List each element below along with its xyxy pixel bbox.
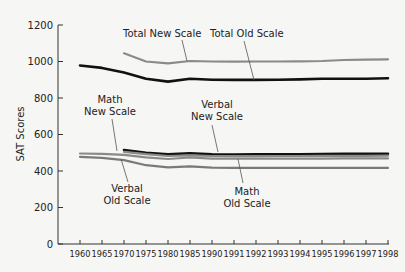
annotation-pointer bbox=[238, 159, 243, 183]
y-tick-label: 800 bbox=[34, 93, 53, 104]
x-tick-label: 1994 bbox=[290, 249, 311, 259]
x-tick-label: 1995 bbox=[312, 249, 333, 259]
annotation-label: Old Scale bbox=[223, 198, 270, 209]
annotation-pointer bbox=[212, 125, 218, 152]
x-tick-label: 1992 bbox=[246, 249, 267, 259]
annotation-label: Math bbox=[234, 186, 259, 197]
annotation: Total Old Scale bbox=[209, 28, 284, 80]
x-tick-label: 1970 bbox=[114, 249, 135, 259]
y-tick-label: 1000 bbox=[28, 56, 53, 67]
sat-scores-line-chart: 020040060080010001200 196019651970197519… bbox=[0, 0, 405, 272]
annotation-pointer bbox=[112, 119, 117, 151]
annotation-label: Total New Scale bbox=[122, 28, 201, 39]
x-tick-label: 1993 bbox=[268, 249, 289, 259]
annotation: VerbalNew Scale bbox=[191, 99, 243, 152]
x-tick-label: 1965 bbox=[92, 249, 113, 259]
annotations: Total New ScaleTotal Old ScaleMathNew Sc… bbox=[84, 28, 284, 209]
y-axis-label: SAT Scores bbox=[15, 106, 26, 161]
series-line-total-new-scale bbox=[124, 53, 388, 63]
series-line-math-new-scale bbox=[124, 150, 388, 155]
y-tick-label: 1200 bbox=[28, 20, 53, 31]
x-ticks: 1960196519701975198019851990199119921993… bbox=[70, 240, 399, 259]
y-tick-label: 0 bbox=[47, 239, 53, 250]
annotation-pointer bbox=[182, 40, 187, 61]
annotation-label: New Scale bbox=[191, 111, 243, 122]
annotation-label: Old Scale bbox=[103, 195, 150, 206]
x-tick-label: 1985 bbox=[180, 249, 201, 259]
annotation: VerbalOld Scale bbox=[103, 159, 150, 206]
x-tick-label: 1960 bbox=[70, 249, 91, 259]
annotation: MathOld Scale bbox=[223, 159, 270, 209]
x-tick-label: 1980 bbox=[158, 249, 179, 259]
annotation: MathNew Scale bbox=[84, 94, 136, 151]
annotation-label: Total Old Scale bbox=[209, 28, 284, 39]
y-tick-label: 600 bbox=[34, 129, 53, 140]
x-tick-label: 1990 bbox=[202, 249, 223, 259]
series-line-total-old-scale bbox=[80, 66, 388, 82]
x-tick-label: 1997 bbox=[356, 249, 377, 259]
y-tick-label: 400 bbox=[34, 166, 53, 177]
annotation-label: Verbal bbox=[111, 183, 143, 194]
x-tick-label: 1998 bbox=[378, 249, 399, 259]
x-tick-label: 1996 bbox=[334, 249, 355, 259]
annotation-label: Verbal bbox=[201, 99, 233, 110]
x-tick-label: 1991 bbox=[224, 249, 245, 259]
annotation-pointer bbox=[121, 159, 128, 182]
y-tick-label: 200 bbox=[34, 202, 53, 213]
x-tick-label: 1975 bbox=[136, 249, 157, 259]
annotation-label: Math bbox=[97, 94, 122, 105]
axes bbox=[58, 25, 389, 244]
annotation-label: New Scale bbox=[84, 106, 136, 117]
